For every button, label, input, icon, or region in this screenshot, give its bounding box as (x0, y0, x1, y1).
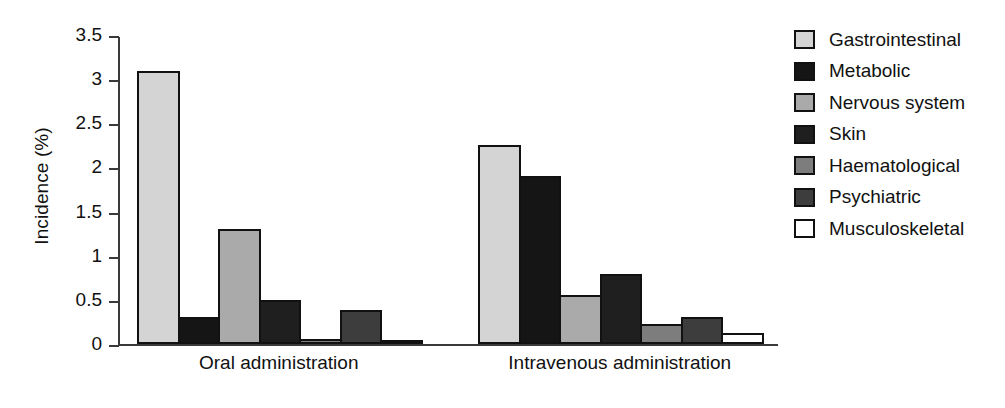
legend-item: Gastrointestinal (794, 24, 1004, 56)
legend-item-label: Haematological (829, 156, 960, 176)
bar (681, 317, 724, 344)
legend-swatch-icon (794, 62, 815, 81)
bar (519, 176, 562, 344)
legend-item: Nervous system (794, 87, 1004, 119)
legend-item-label: Skin (829, 124, 866, 144)
legend-item-label: Metabolic (829, 61, 910, 81)
bar (340, 310, 383, 344)
y-tick: 0 (109, 345, 119, 347)
legend: GastrointestinalMetabolicNervous systemS… (794, 24, 1004, 245)
x-axis-group-label: Intravenous administration (470, 352, 770, 374)
y-tick-label: 1.5 (76, 202, 102, 222)
bar (559, 295, 602, 344)
legend-swatch-icon (794, 188, 815, 207)
bar (299, 339, 342, 344)
legend-swatch-icon (794, 219, 815, 238)
legend-item: Metabolic (794, 56, 1004, 88)
y-tick-label: 0.5 (76, 290, 102, 310)
legend-item: Musculoskeletal (794, 213, 1004, 245)
bar (640, 324, 683, 344)
bar-chart-figure: Incidence (%) 00.511.522.533.5 Oral admi… (0, 0, 1005, 408)
legend-swatch-icon (794, 93, 815, 112)
plot-area: 00.511.522.533.5 Oral administrationIntr… (118, 30, 778, 350)
bar (478, 145, 521, 344)
legend-item: Psychiatric (794, 182, 1004, 214)
legend-swatch-icon (794, 30, 815, 49)
y-tick-label: 2 (91, 157, 102, 177)
legend-item: Skin (794, 119, 1004, 151)
y-tick-label: 3.5 (76, 25, 102, 45)
bars-container (118, 30, 778, 345)
legend-swatch-icon (794, 125, 815, 144)
bar (137, 71, 180, 344)
legend-item: Haematological (794, 150, 1004, 182)
bar (259, 300, 302, 344)
legend-item-label: Nervous system (829, 93, 965, 113)
y-tick-label: 2.5 (76, 113, 102, 133)
y-tick-label: 3 (91, 69, 102, 89)
y-tick-label: 0 (91, 334, 102, 354)
x-axis-group-label: Oral administration (129, 352, 429, 374)
bar (218, 229, 261, 344)
legend-item-label: Psychiatric (829, 187, 921, 207)
bar (600, 274, 643, 344)
y-axis-title: Incidence (%) (31, 86, 53, 286)
legend-item-label: Musculoskeletal (829, 219, 964, 239)
legend-item-label: Gastrointestinal (829, 30, 961, 50)
y-tick-label: 1 (91, 246, 102, 266)
legend-swatch-icon (794, 156, 815, 175)
bar (380, 340, 423, 344)
bar (178, 317, 221, 344)
bar (721, 333, 764, 344)
